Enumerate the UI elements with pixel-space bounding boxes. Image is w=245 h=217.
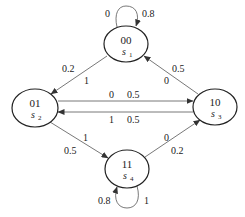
node-s4-name: s	[123, 170, 127, 181]
state-diagram: 00 s 1 01 s 2 10 s 3 11 s 4 0 0.8 0.2 1 …	[0, 0, 245, 217]
label-s4-s3-input: 0	[164, 132, 169, 143]
label-s4-loop-prob: 0.8	[98, 195, 111, 206]
node-s1-sub: 1	[129, 51, 133, 59]
node-s3-sub: 3	[218, 113, 222, 121]
label-s3-s2-input: 1	[109, 114, 114, 125]
label-s3-s1-prob: 0.5	[172, 63, 185, 74]
node-s4: 11 s 4	[105, 150, 149, 188]
edge-s1-loop	[116, 6, 138, 27]
label-s1-loop-input: 0	[105, 8, 110, 19]
label-s4-loop-input: 1	[144, 195, 149, 206]
node-s2-code: 01	[30, 97, 41, 109]
edge-s4-loop	[116, 186, 139, 208]
node-s1: 00 s 1	[104, 26, 148, 62]
node-s3-name: s	[211, 108, 215, 119]
edge-s4-to-s2	[50, 122, 108, 158]
label-s3-s2-prob: 0.5	[127, 114, 140, 125]
edge-s1-to-s2	[51, 56, 107, 94]
node-s2-name: s	[31, 109, 35, 120]
node-s4-code: 11	[122, 158, 133, 170]
label-s3-s1-input: 0	[164, 75, 169, 86]
label-s2-s3-prob: 0.5	[127, 89, 140, 100]
label-s2-s3-input: 0	[109, 89, 114, 100]
node-s2: 01 s 2	[12, 89, 58, 127]
node-s2-sub: 2	[38, 114, 42, 122]
node-s1-code: 00	[121, 34, 133, 46]
label-s4-s2-prob: 0.5	[64, 145, 77, 156]
label-s1-s2-input: 1	[84, 75, 89, 86]
label-s4-s2-input: 1	[83, 132, 88, 143]
node-s4-sub: 4	[130, 175, 134, 183]
label-s1-loop-prob: 0.8	[142, 8, 155, 19]
label-s1-s2-prob: 0.2	[62, 63, 75, 74]
node-s1-name: s	[122, 46, 126, 57]
edge-s3-to-s1	[144, 56, 198, 94]
node-s3-code: 10	[210, 96, 222, 108]
label-s4-s3-prob: 0.2	[171, 145, 184, 156]
node-s3: 10 s 3	[193, 89, 237, 125]
